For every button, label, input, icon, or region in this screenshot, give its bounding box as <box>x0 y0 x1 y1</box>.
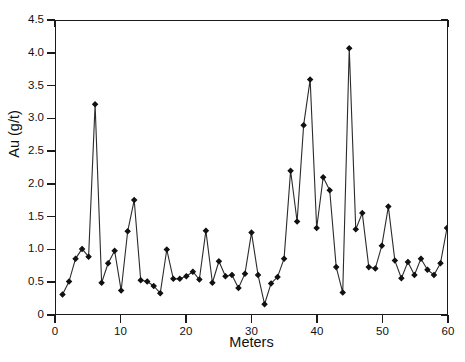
chart-figure: Successive 5-m composites Au (g/t) Meter… <box>0 0 465 362</box>
series-markers <box>60 46 447 307</box>
series-line-au-grade <box>56 21 447 314</box>
data-point-marker <box>379 243 384 248</box>
x-axis-tick <box>185 315 187 323</box>
data-point-marker <box>93 102 98 107</box>
data-point-marker <box>314 226 319 231</box>
data-point-marker <box>386 204 391 209</box>
x-axis-tick-label: 40 <box>297 325 337 337</box>
data-point-marker <box>256 272 261 277</box>
y-axis-tick <box>47 118 55 120</box>
y-axis-tick-label: 1.0 <box>8 242 44 254</box>
y-axis-tick <box>47 281 55 283</box>
data-point-marker <box>282 256 287 261</box>
data-point-marker <box>171 276 176 281</box>
data-point-marker <box>132 198 137 203</box>
x-axis-tick-label: 20 <box>166 325 206 337</box>
y-axis-tick-label: 2.5 <box>8 144 44 156</box>
y-axis-tick <box>47 85 55 87</box>
data-point-marker <box>223 274 228 279</box>
y-axis-tick-label: 3.5 <box>8 79 44 91</box>
y-axis-tick-label: 0.5 <box>8 275 44 287</box>
data-point-marker <box>366 265 371 270</box>
y-axis-tick <box>47 249 55 251</box>
y-axis-tick-label: 4.0 <box>8 46 44 58</box>
y-axis-tick-label: 2.0 <box>8 177 44 189</box>
data-point-marker <box>164 247 169 252</box>
data-point-marker <box>308 77 313 82</box>
x-axis-tick-label: 10 <box>101 325 141 337</box>
x-axis-tick <box>120 315 122 323</box>
data-point-marker <box>334 265 339 270</box>
data-point-marker <box>399 276 404 281</box>
data-point-marker <box>412 272 417 277</box>
data-point-marker <box>60 292 65 297</box>
x-axis-tick <box>382 315 384 323</box>
data-point-marker <box>216 259 221 264</box>
data-point-marker <box>242 271 247 276</box>
data-point-marker <box>229 272 234 277</box>
data-point-marker <box>418 256 423 261</box>
x-axis-tick-label: 30 <box>232 325 272 337</box>
x-axis-tick <box>316 315 318 323</box>
data-point-marker <box>353 227 358 232</box>
data-point-marker <box>347 46 352 51</box>
data-point-marker <box>125 229 130 234</box>
data-point-marker <box>99 280 104 285</box>
x-axis-tick-label: 50 <box>363 325 403 337</box>
data-point-marker <box>236 285 241 290</box>
data-point-marker <box>445 226 447 231</box>
data-point-marker <box>321 175 326 180</box>
data-point-marker <box>177 276 182 281</box>
data-point-marker <box>327 188 332 193</box>
data-point-marker <box>249 230 254 235</box>
data-point-marker <box>262 302 267 307</box>
y-axis-tick-label: 3.0 <box>8 111 44 123</box>
data-point-marker <box>360 211 365 216</box>
data-point-marker <box>106 261 111 266</box>
data-point-marker <box>119 288 124 293</box>
data-point-marker <box>138 278 143 283</box>
series-polyline <box>63 48 447 304</box>
data-point-marker <box>295 219 300 224</box>
data-point-marker <box>112 248 117 253</box>
y-axis-tick-label: 4.5 <box>8 13 44 25</box>
data-point-marker <box>67 279 72 284</box>
y-axis-tick <box>47 52 55 54</box>
y-axis-tick <box>47 216 55 218</box>
data-point-marker <box>288 168 293 173</box>
y-axis-tick-label: 1.5 <box>8 210 44 222</box>
x-axis-tick <box>447 315 449 323</box>
data-point-marker <box>373 266 378 271</box>
y-axis-tick <box>47 150 55 152</box>
data-point-marker <box>340 290 345 295</box>
y-axis-tick-label: 0 <box>8 308 44 320</box>
data-point-marker <box>392 258 397 263</box>
data-point-marker <box>405 259 410 264</box>
plot-area <box>55 20 448 315</box>
data-point-marker <box>210 280 215 285</box>
y-axis-tick <box>47 183 55 185</box>
data-point-marker <box>438 261 443 266</box>
x-axis-tick-label: 60 <box>428 325 465 337</box>
data-point-marker <box>203 228 208 233</box>
x-axis-tick <box>251 315 253 323</box>
x-axis-tick <box>54 315 56 323</box>
x-axis-tick-label: 0 <box>35 325 75 337</box>
data-point-marker <box>301 123 306 128</box>
